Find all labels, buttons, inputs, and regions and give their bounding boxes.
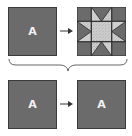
bottom-source-square: A	[8, 80, 57, 129]
bottom-source-label: A	[28, 98, 37, 111]
right-arrow-icon	[60, 100, 73, 108]
bottom-result-label: A	[97, 98, 106, 111]
curly-brace-icon	[8, 58, 128, 74]
top-source-square: A	[8, 7, 57, 56]
top-source-label: A	[28, 25, 37, 38]
star-quilt-block	[77, 7, 126, 56]
bottom-result-square: A	[77, 80, 126, 129]
right-arrow-icon	[60, 27, 73, 35]
